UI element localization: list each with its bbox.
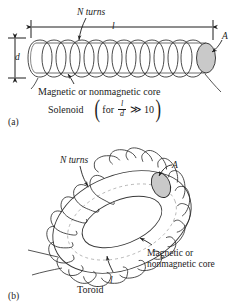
solenoid-end-face-area	[197, 43, 216, 73]
physics-figure-solenoid-toroid: N turns l A d Magnetic or nonmagnetic co…	[0, 0, 240, 307]
solenoid-length-dimension	[31, 20, 213, 40]
panel-b-tag: (b)	[8, 291, 19, 302]
for-word: for	[102, 104, 114, 115]
solenoid-nturns-label: N turns	[77, 7, 105, 18]
fraction-denominator: d	[118, 110, 126, 119]
toroid-diagram	[23, 131, 211, 304]
much-greater-than-symbol: ≫	[130, 103, 142, 116]
toroid-length-label: l	[110, 275, 113, 286]
toroid-nturns-leader	[80, 166, 88, 186]
solenoid-core-cylinder	[31, 43, 207, 73]
toroid-cross-section-area	[148, 170, 174, 201]
fraction-numerator: l	[119, 100, 125, 109]
length-diameter-fraction: l d	[118, 100, 126, 118]
solenoid-diameter-label: d	[15, 52, 20, 63]
solenoid-condition-formula: ( for l d ≫ 10 )	[93, 100, 162, 118]
toroid-core-label-line1: Magnetic or	[147, 248, 215, 259]
panel-a-tag: (a)	[8, 117, 19, 128]
solenoid-nturns-leader	[79, 18, 86, 40]
toroid-core-label-line2: nonmagnetic core	[147, 259, 215, 270]
solenoid-winding-coils	[28, 40, 205, 77]
solenoid-area-label: A	[222, 31, 228, 42]
toroid-core-label: Magnetic or nonmagnetic core	[147, 248, 215, 269]
toroid-length-leader	[107, 256, 113, 272]
toroid-name-label: Toroid	[77, 284, 104, 295]
toroid-winding-coils	[23, 131, 211, 304]
solenoid-diagram	[8, 18, 222, 92]
toroid-nturns-label: N turns	[60, 155, 88, 166]
toroid-area-label: A	[172, 160, 178, 171]
solenoid-name-label: Solenoid	[48, 104, 84, 115]
solenoid-length-label: l	[112, 21, 115, 32]
toroid-core-leader	[140, 238, 152, 245]
condition-value: 10	[144, 104, 154, 115]
